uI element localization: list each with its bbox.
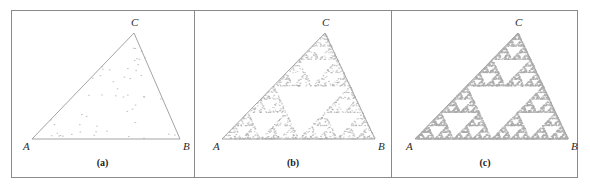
- panel-c: A B C (c): [392, 10, 578, 178]
- panel-b: A B C (b): [195, 10, 391, 178]
- chaos-game-points: [416, 34, 568, 139]
- vertex-label-b-A: A: [213, 141, 220, 152]
- sierpinski-plot-a: [11, 10, 194, 178]
- vertex-label-a-C: C: [131, 17, 138, 28]
- figure-root: A B C (a) A B C (b) A B C (c): [0, 0, 590, 189]
- panel-a: A B C (a): [11, 10, 194, 178]
- vertex-label-a-A: A: [23, 141, 30, 152]
- sierpinski-plot-b: [195, 10, 391, 178]
- vertex-label-a-B: B: [183, 141, 190, 152]
- vertex-label-c-B: B: [571, 141, 578, 152]
- vertex-label-b-B: B: [378, 141, 385, 152]
- sierpinski-plot-c: [392, 10, 578, 178]
- chaos-game-points: [224, 34, 375, 139]
- chaos-game-points: [51, 48, 176, 138]
- vertex-label-b-C: C: [322, 17, 329, 28]
- panel-caption-c: (c): [392, 158, 578, 168]
- panel-caption-a: (a): [11, 158, 194, 168]
- vertex-label-c-C: C: [515, 17, 522, 28]
- vertex-label-c-A: A: [406, 141, 413, 152]
- triangle-outline: [32, 33, 180, 139]
- panel-caption-b: (b): [195, 158, 391, 168]
